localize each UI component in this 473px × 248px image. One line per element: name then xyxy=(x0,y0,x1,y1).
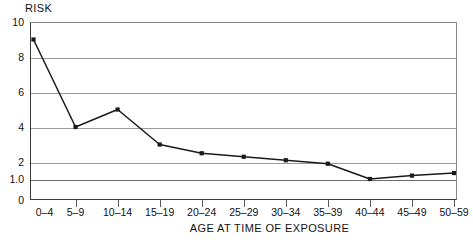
y-tick-label: 0 xyxy=(0,194,24,206)
x-tick-label: 25–29 xyxy=(229,206,258,218)
x-tick-label: 15–19 xyxy=(145,206,174,218)
x-tick-label: 10–14 xyxy=(103,206,132,218)
x-axis-title: AGE AT TIME OF EXPOSURE xyxy=(0,222,473,234)
y-tick-label: 10 xyxy=(0,16,24,28)
y-tick-label: 6 xyxy=(0,86,24,98)
x-tick-label: 30–34 xyxy=(271,206,300,218)
x-tick-label: 0–4 xyxy=(36,206,54,218)
y-tick-label: 8 xyxy=(0,51,24,63)
y-tick-label: 1.0 xyxy=(0,173,24,185)
x-tick-label: 50–59 xyxy=(439,206,468,218)
y-tick-label: 2 xyxy=(0,156,24,168)
risk-by-age-chart: RISK 1086421.00 0–45–910–1415–1920–2425–… xyxy=(0,0,473,248)
x-tick-label: 5–9 xyxy=(67,206,85,218)
x-tick-label: 40–44 xyxy=(355,206,384,218)
y-tick-label: 4 xyxy=(0,121,24,133)
x-tick-label: 45–49 xyxy=(397,206,426,218)
x-axis-title-text: AGE AT TIME OF EXPOSURE xyxy=(124,222,350,234)
x-tick-label: 20–24 xyxy=(187,206,216,218)
x-tick-label: 35–39 xyxy=(313,206,342,218)
